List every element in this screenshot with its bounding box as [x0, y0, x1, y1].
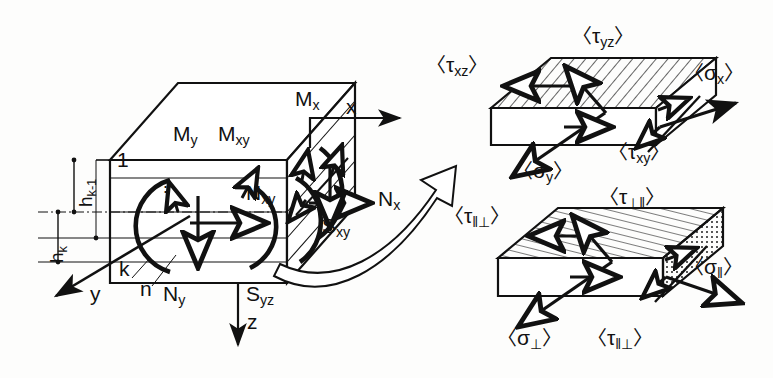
label-mx: Mx — [295, 88, 320, 112]
label-h-k: hk — [47, 246, 70, 263]
label-tau-xz: 〈τxz〉 — [426, 54, 488, 78]
label-mxy: Mxy — [218, 123, 249, 147]
sigma-par-vector — [666, 277, 742, 303]
label-tau-par-perp: 〈τ‖⊥〉 — [587, 327, 653, 351]
label-ny: Ny — [163, 283, 185, 307]
axis-label-y: y — [90, 283, 101, 304]
label-sigma-perp: 〈σ⊥〉 — [497, 327, 562, 351]
label-syz: Syz — [246, 283, 274, 307]
label-h-k-minus-1: hk-1 — [76, 179, 99, 207]
layer-index-1: 1 — [117, 149, 129, 170]
label-tau-yz: 〈τyz〉 — [572, 25, 634, 49]
figure-canvas: Mx My Mxy Nxy Nx Sxy Ny Syz x y z 1 ⋮ k … — [0, 0, 773, 378]
label-tau-par-perp-side: 〈τ‖⊥〉 — [444, 205, 510, 229]
label-tau-xy: 〈τxy〉 — [608, 141, 670, 165]
label-nxy: Nxy — [246, 182, 275, 206]
layer-index-n: n — [140, 278, 152, 299]
axis-label-x: x — [346, 96, 357, 117]
layer-index-dots: ⋮ — [157, 178, 174, 195]
axis-label-z: z — [247, 311, 258, 332]
label-sigma-par: 〈σ‖〉 — [684, 256, 743, 280]
label-sigma-y: 〈σy〉 — [513, 160, 573, 184]
layer-index-k: k — [119, 258, 130, 279]
label-tau-perp-par: 〈τ⊥‖〉 — [599, 186, 665, 210]
label-my: My — [173, 123, 198, 147]
label-sxy: Sxy — [322, 215, 350, 239]
label-nx: Nx — [378, 188, 400, 212]
label-sigma-x: 〈σx〉 — [684, 62, 744, 86]
